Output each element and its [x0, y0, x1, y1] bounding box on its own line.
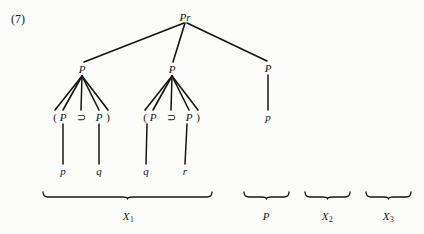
underbrace-p — [244, 192, 289, 199]
tree-node-leaf-p1: p — [60, 166, 66, 177]
tree-edge — [55, 76, 82, 110]
tree-node-l2-open: ( — [143, 112, 147, 123]
tree-node-root: Pr — [180, 12, 191, 23]
tree-edge — [172, 76, 198, 110]
tree-node-l1-close: ) — [106, 112, 110, 123]
tree-node-l2-close: ) — [196, 112, 200, 123]
tree-node-p-mid: P — [169, 64, 176, 75]
tree-edge — [187, 23, 267, 61]
tree-node-leaf-p2: p — [265, 112, 271, 123]
tree-edge — [185, 124, 187, 164]
constituent-label-p: P — [263, 210, 270, 222]
tree-edge — [63, 76, 82, 110]
tree-edge — [153, 76, 172, 110]
tree-edge — [145, 76, 172, 110]
tree-node-leaf-r1: r — [183, 166, 187, 177]
tree-node-p-right: P — [265, 63, 272, 74]
tree-node-p-left: P — [79, 64, 86, 75]
tree-edge — [173, 23, 185, 62]
tree-node-l1-p2: P — [96, 112, 103, 123]
tree-node-leaf-q1: q — [96, 166, 102, 177]
tree-node-leaf-q2: q — [143, 166, 149, 177]
tree-node-l1-p1: P — [60, 112, 67, 123]
constituent-label-x1: X1 — [123, 210, 133, 222]
tree-node-l2-p1: P — [150, 112, 157, 123]
tree-edge — [81, 76, 82, 110]
syntax-tree-figure: (7) PrPPP(P⊃P)(P⊃P)pqqrp X1PX2X3 — [0, 0, 424, 234]
underbrace-x1 — [43, 192, 212, 199]
constituent-label-x3: X3 — [383, 210, 393, 222]
tree-edge — [84, 23, 184, 62]
tree-edge — [172, 76, 189, 110]
tree-edge — [82, 76, 108, 110]
tree-node-l2-p2: P — [186, 112, 193, 123]
underbrace-x3 — [366, 192, 411, 199]
tree-edge — [82, 76, 99, 110]
tree-edge — [171, 76, 172, 110]
tree-edge — [146, 124, 147, 164]
tree-node-l1-open: ( — [53, 112, 57, 123]
underbrace-x2 — [305, 192, 350, 199]
constituent-label-x2: X2 — [322, 210, 332, 222]
tree-node-l2-horseshoe: ⊃ — [167, 112, 176, 123]
tree-node-l1-horseshoe: ⊃ — [77, 112, 86, 123]
